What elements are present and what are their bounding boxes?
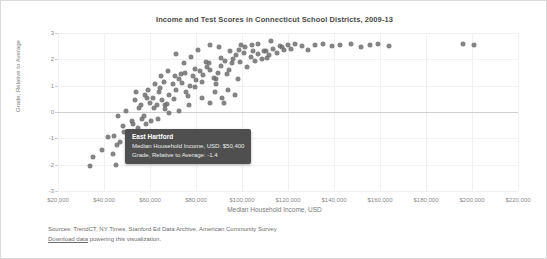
scatter-point[interactable] bbox=[305, 48, 310, 53]
scatter-point[interactable] bbox=[348, 41, 353, 46]
scatter-point[interactable] bbox=[236, 48, 241, 53]
scatter-point[interactable] bbox=[170, 82, 175, 87]
scatter-point[interactable] bbox=[300, 44, 305, 49]
scatter-point[interactable] bbox=[181, 61, 186, 66]
scatter-point[interactable] bbox=[359, 45, 364, 50]
scatter-point[interactable] bbox=[156, 116, 161, 121]
scatter-point[interactable] bbox=[255, 41, 260, 46]
scatter-point[interactable] bbox=[218, 56, 223, 61]
scatter-point[interactable] bbox=[338, 42, 343, 47]
scatter-point[interactable] bbox=[221, 100, 226, 105]
scatter-point[interactable] bbox=[220, 95, 225, 100]
scatter-point[interactable] bbox=[138, 103, 143, 108]
scatter-point[interactable] bbox=[222, 58, 227, 63]
scatter-point[interactable] bbox=[117, 140, 122, 145]
scatter-point[interactable] bbox=[157, 86, 162, 91]
scatter-point[interactable] bbox=[176, 108, 181, 113]
scatter-point[interactable] bbox=[214, 77, 219, 82]
scatter-point[interactable] bbox=[256, 52, 261, 57]
scatter-point[interactable] bbox=[200, 95, 205, 100]
scatter-point[interactable] bbox=[134, 90, 139, 95]
scatter-point[interactable] bbox=[166, 111, 171, 116]
scatter-point[interactable] bbox=[194, 78, 199, 83]
scatter-point[interactable] bbox=[204, 59, 209, 64]
scatter-point[interactable] bbox=[106, 135, 111, 140]
scatter-point[interactable] bbox=[159, 98, 164, 103]
scatter-point[interactable] bbox=[280, 45, 285, 50]
scatter-point[interactable] bbox=[141, 113, 146, 118]
scatter-point[interactable] bbox=[186, 103, 191, 108]
scatter-point[interactable] bbox=[251, 49, 256, 54]
scatter-point[interactable] bbox=[185, 94, 190, 99]
scatter-point[interactable] bbox=[90, 154, 95, 159]
scatter-point[interactable] bbox=[215, 70, 220, 75]
scatter-point[interactable] bbox=[113, 162, 118, 167]
scatter-point[interactable] bbox=[124, 108, 129, 113]
scatter-point[interactable] bbox=[245, 65, 250, 70]
scatter-point[interactable] bbox=[174, 52, 179, 57]
scatter-point[interactable] bbox=[131, 121, 136, 126]
scatter-point[interactable] bbox=[212, 90, 217, 95]
scatter-point[interactable] bbox=[252, 58, 257, 63]
scatter-point[interactable] bbox=[289, 46, 294, 51]
scatter-point[interactable] bbox=[162, 79, 167, 84]
scatter-point[interactable] bbox=[237, 59, 242, 64]
scatter-point[interactable] bbox=[152, 106, 157, 111]
scatter-point[interactable] bbox=[261, 49, 266, 54]
scatter-point[interactable] bbox=[148, 119, 153, 124]
scatter-point[interactable] bbox=[225, 87, 230, 92]
scatter-point[interactable] bbox=[461, 41, 466, 46]
scatter-point[interactable] bbox=[201, 73, 206, 78]
scatter-point[interactable] bbox=[165, 69, 170, 74]
scatter-point[interactable] bbox=[265, 56, 270, 61]
scatter-point[interactable] bbox=[146, 87, 151, 92]
scatter-point[interactable] bbox=[208, 100, 213, 105]
scatter-point[interactable] bbox=[116, 113, 121, 118]
scatter-point[interactable] bbox=[228, 49, 233, 54]
scatter-point[interactable] bbox=[193, 66, 198, 71]
scatter-point[interactable] bbox=[171, 96, 176, 101]
scatter-point[interactable] bbox=[208, 67, 213, 72]
scatter-point[interactable] bbox=[219, 63, 224, 68]
scatter-point[interactable] bbox=[268, 38, 273, 43]
scatter-point[interactable] bbox=[249, 42, 254, 47]
scatter-point[interactable] bbox=[162, 103, 167, 108]
scatter-point[interactable] bbox=[236, 77, 241, 82]
scatter-point[interactable] bbox=[231, 57, 236, 62]
scatter-point[interactable] bbox=[173, 74, 178, 79]
scatter-point[interactable] bbox=[188, 54, 193, 59]
download-data-link[interactable]: Download data bbox=[48, 236, 88, 242]
scatter-point[interactable] bbox=[293, 41, 298, 46]
scatter-point[interactable] bbox=[132, 98, 137, 103]
scatter-point[interactable] bbox=[199, 79, 204, 84]
scatter-point[interactable] bbox=[87, 163, 92, 168]
scatter-point[interactable] bbox=[386, 44, 391, 49]
scatter-point[interactable] bbox=[232, 92, 237, 97]
scatter-point[interactable] bbox=[110, 152, 115, 157]
scatter-point[interactable] bbox=[147, 100, 152, 105]
scatter-point[interactable] bbox=[239, 42, 244, 47]
scatter-point[interactable] bbox=[214, 82, 219, 87]
scatter-point[interactable] bbox=[145, 95, 150, 100]
scatter-point[interactable] bbox=[180, 81, 185, 86]
scatter-point[interactable] bbox=[367, 42, 372, 47]
scatter-point[interactable] bbox=[225, 71, 230, 76]
scatter-point[interactable] bbox=[173, 87, 178, 92]
scatter-point[interactable] bbox=[471, 42, 476, 47]
scatter-point[interactable] bbox=[207, 42, 212, 47]
scatter-point[interactable] bbox=[153, 82, 158, 87]
scatter-point[interactable] bbox=[150, 95, 155, 100]
scatter-point[interactable] bbox=[313, 42, 318, 47]
scatter-point[interactable] bbox=[329, 44, 334, 49]
scatter-point[interactable] bbox=[111, 133, 116, 138]
scatter-point[interactable] bbox=[99, 148, 104, 153]
scatter-point[interactable] bbox=[120, 124, 125, 129]
scatter-point[interactable] bbox=[274, 50, 279, 55]
scatter-point[interactable] bbox=[217, 45, 222, 50]
scatter-point[interactable] bbox=[321, 41, 326, 46]
scatter-point[interactable] bbox=[196, 48, 201, 53]
scatter-point[interactable] bbox=[375, 41, 380, 46]
scatter-point[interactable] bbox=[159, 74, 164, 79]
scatter-point[interactable] bbox=[192, 84, 197, 89]
scatter-point[interactable] bbox=[241, 50, 246, 55]
